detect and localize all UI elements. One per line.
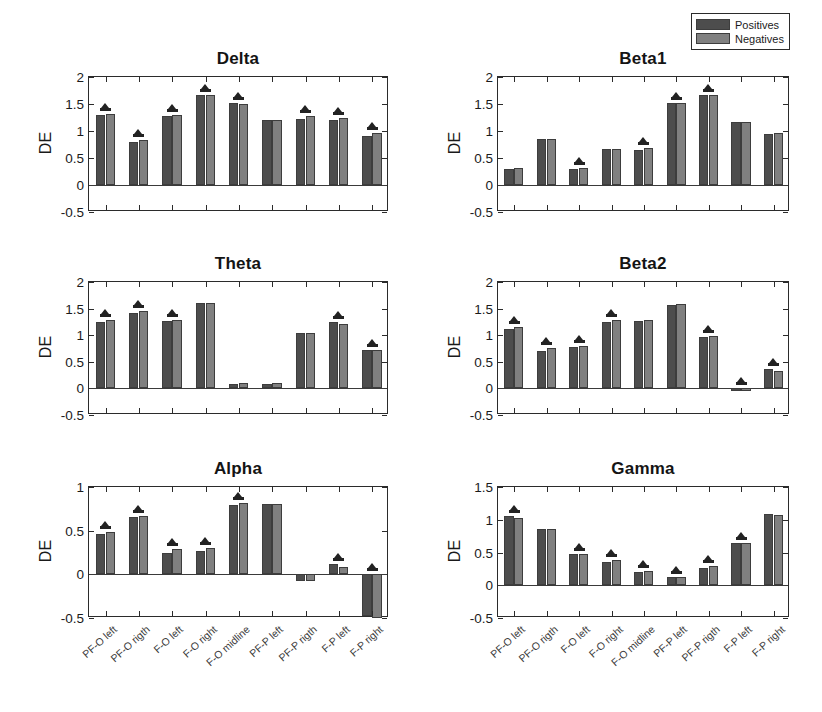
bar-fill (612, 560, 621, 585)
bar-fill (774, 515, 783, 586)
legend-swatch-positives (696, 19, 730, 30)
significance-marker (736, 531, 747, 540)
bar-fill (741, 543, 750, 585)
legend-swatch-negatives (696, 33, 730, 44)
bar-negatives (547, 529, 556, 585)
y-axis-label: DE (446, 531, 464, 571)
bar-fill (709, 566, 718, 585)
bar-negatives (514, 518, 523, 585)
x-tick-mark (547, 611, 548, 616)
bar-positives (537, 529, 546, 585)
legend-item-positives: Positives (696, 18, 784, 31)
bar-group (569, 487, 589, 616)
bar-positives (504, 516, 513, 585)
bar-positives (667, 577, 676, 585)
significance-marker (671, 565, 682, 574)
bar-fill (579, 554, 588, 585)
bar-group (764, 487, 784, 616)
bar-positives (764, 514, 773, 585)
x-tick-mark (579, 611, 580, 616)
x-tick-mark (644, 487, 645, 492)
bar-negatives (644, 571, 653, 585)
y-tick-label: 1 (485, 512, 493, 527)
legend-label-negatives: Negatives (735, 33, 784, 45)
x-axis-labels: PF-O leftPF-O rigthF-O leftF-O rightF-O … (497, 621, 789, 691)
y-tick-label: 0.5 (474, 545, 493, 560)
y-tick-mark (783, 618, 788, 619)
x-tick-mark (547, 487, 548, 492)
bar-fill (764, 514, 773, 585)
x-tick-mark (741, 487, 742, 492)
x-tick-mark (709, 487, 710, 492)
bar-fill (699, 568, 708, 586)
bar-fill (547, 529, 556, 585)
y-tick-label: -0.5 (470, 611, 493, 626)
bar-fill (634, 572, 643, 585)
bar-fill (569, 554, 578, 585)
bar-fill (644, 571, 653, 585)
bar-negatives (579, 554, 588, 585)
significance-marker (606, 548, 617, 557)
bar-negatives (774, 515, 783, 586)
y-tick-label: 1.5 (474, 480, 493, 495)
x-tick-mark (579, 487, 580, 492)
legend-label-positives: Positives (735, 19, 779, 31)
bar-group (699, 487, 719, 616)
x-tick-mark (774, 487, 775, 492)
y-tick-label: 0 (485, 578, 493, 593)
bar-group (537, 487, 557, 616)
bar-fill (667, 577, 676, 585)
bar-positives (602, 562, 611, 586)
bar-group (731, 487, 751, 616)
x-tick-mark (741, 611, 742, 616)
bar-group (601, 487, 621, 616)
x-tick-mark (612, 611, 613, 616)
x-tick-mark (676, 487, 677, 492)
bar-fill (537, 529, 546, 585)
x-tick-mark (514, 611, 515, 616)
x-tick-mark (709, 611, 710, 616)
significance-marker (638, 559, 649, 568)
bar-fill (602, 562, 611, 586)
chart-panel-gamma: GammaDE1.510.50-0.5PF-O leftPF-O rigthF-… (0, 0, 822, 712)
bar-negatives (612, 560, 621, 585)
x-tick-mark (612, 487, 613, 492)
bar-positives (699, 568, 708, 586)
bar-positives (634, 572, 643, 585)
significance-marker (703, 554, 714, 563)
panel-title: Gamma (497, 459, 789, 479)
bar-negatives (676, 577, 685, 586)
plot-area: 1.510.50-0.5 (497, 486, 789, 617)
bar-fill (514, 518, 523, 585)
bar-positives (569, 554, 578, 585)
legend-item-negatives: Negatives (696, 32, 784, 45)
bar-group (504, 487, 524, 616)
x-tick-mark (676, 611, 677, 616)
bar-fill (504, 516, 513, 585)
significance-marker (574, 542, 585, 551)
y-tick-mark (498, 618, 503, 619)
chart-legend: Positives Negatives (691, 13, 790, 50)
bar-fill (731, 543, 740, 585)
bar-series-container (498, 487, 788, 616)
significance-marker (509, 504, 520, 513)
bar-fill (676, 577, 685, 586)
bar-positives (731, 543, 740, 585)
x-tick-mark (514, 487, 515, 492)
bar-negatives (741, 543, 750, 585)
bar-group (666, 487, 686, 616)
bar-negatives (709, 566, 718, 585)
bar-group (634, 487, 654, 616)
figure-canvas: DeltaDE21.510.50-0.5Beta1DE21.510.50-0.5… (0, 0, 822, 712)
x-tick-mark (774, 611, 775, 616)
x-tick-mark (644, 611, 645, 616)
